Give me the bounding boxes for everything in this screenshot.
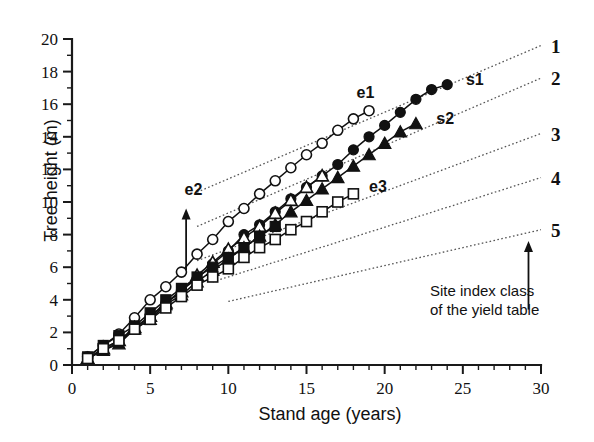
curve-label-e2: e2 [185,181,203,198]
e2-arrow-head [182,209,191,220]
marker-filled-circle [348,145,358,155]
series-line-e3 [88,194,354,359]
y-tick-label: 0 [50,356,59,375]
data-series-group [81,80,452,364]
marker-open-square [333,197,343,207]
marker-open-square [145,314,155,324]
marker-filled-triangle [316,183,328,194]
marker-filled-triangle [394,126,406,137]
site-index-arrow-head [524,241,533,252]
marker-open-square [223,264,233,274]
marker-filled-circle [333,160,343,170]
reference-lines-group: 12345 [197,36,561,302]
marker-open-circle [348,114,358,124]
marker-open-circle [317,138,327,148]
y-tick-label: 4 [50,291,59,310]
marker-open-square [270,234,280,244]
x-axis-title-text: Stand age (years) [258,404,401,424]
marker-filled-circle [380,120,390,130]
x-axis-title: Stand age (years) [200,404,460,425]
marker-filled-square [223,252,233,262]
marker-open-circle [176,267,186,277]
marker-open-circle [192,249,202,259]
marker-filled-square [270,221,280,231]
marker-filled-circle [411,94,421,104]
marker-open-circle [145,295,155,305]
site-index-note-line2: of the yield table [430,301,539,320]
marker-filled-square [255,231,265,241]
x-tick-label: 20 [376,379,393,398]
marker-open-square [302,217,312,227]
reference-line-label-5: 5 [551,220,561,241]
marker-open-square [348,189,358,199]
marker-open-circle [161,282,171,292]
y-tick-label: 2 [50,323,59,342]
y-axis-title-text: Tree height (m) [41,119,61,241]
marker-filled-circle [427,85,437,95]
x-tick-label: 15 [298,379,315,398]
site-index-note-line1: Site index class [430,282,539,301]
reference-line-label-4: 4 [551,168,561,189]
marker-open-circle [270,176,280,186]
marker-filled-square [208,262,218,272]
marker-filled-square [239,243,249,253]
marker-open-square [130,324,140,334]
series-line-s1 [88,85,448,359]
marker-filled-triangle [300,194,312,205]
curve-label-s1: s1 [466,71,484,88]
marker-filled-triangle [410,118,422,129]
marker-open-circle [364,106,374,116]
marker-open-square [83,353,93,363]
y-axis-title: Tree height (m) [41,86,62,276]
marker-filled-triangle [378,137,390,148]
marker-open-circle [302,150,312,160]
marker-open-square [208,272,218,282]
marker-open-circle [255,189,265,199]
marker-filled-triangle [347,160,359,171]
x-tick-label: 5 [146,379,155,398]
reference-line-label-1: 1 [551,36,561,57]
marker-open-circle [286,163,296,173]
curve-label-e1: e1 [357,84,375,101]
series-e3 [83,189,359,364]
marker-open-square [239,252,249,262]
y-tick-label: 18 [41,63,58,82]
marker-open-circle [223,217,233,227]
reference-line-label-2: 2 [551,68,561,89]
marker-open-square [98,344,108,354]
marker-open-circle [208,234,218,244]
marker-filled-circle [442,80,452,90]
series-e1 [83,106,374,362]
marker-filled-triangle [332,171,344,182]
x-tick-label: 25 [454,379,471,398]
x-tick-label: 30 [533,379,550,398]
tree-height-vs-stand-age-chart: 12345 02468101214161820051015202530 e1e2… [0,0,594,442]
x-tick-label: 10 [220,379,237,398]
chart-figure: 12345 02468101214161820051015202530 e1e2… [0,0,594,442]
marker-open-square [161,303,171,313]
marker-filled-circle [364,132,374,142]
curve-label-s2: s2 [436,110,454,127]
marker-open-square [317,207,327,217]
marker-filled-circle [395,107,405,117]
reference-line-label-3: 3 [551,124,561,145]
marker-filled-triangle [285,206,297,217]
marker-open-square [176,292,186,302]
x-tick-label: 0 [68,379,77,398]
site-index-note: Site index class of the yield table [430,282,539,320]
marker-open-square [114,336,124,346]
marker-open-square [255,243,265,253]
marker-open-circle [333,125,343,135]
y-tick-label: 20 [41,30,58,49]
marker-open-square [286,225,296,235]
reference-line-1 [197,46,541,193]
marker-open-circle [239,204,249,214]
curve-label-e3: e3 [369,178,387,195]
marker-open-square [192,280,202,290]
